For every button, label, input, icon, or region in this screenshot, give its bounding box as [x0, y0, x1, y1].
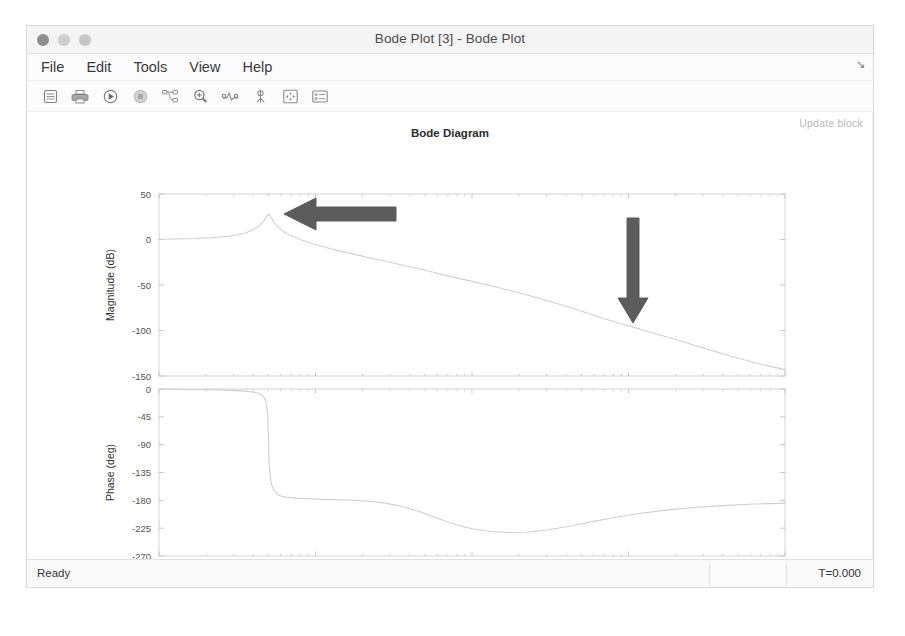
status-bar: Ready T=0.000: [27, 559, 873, 587]
status-pane: [709, 562, 787, 586]
magnitude-axes-box: [159, 194, 785, 376]
save-icon: [42, 88, 59, 105]
phase-axes-box: [159, 389, 785, 556]
screenshot-root: Bode Plot [3] - Bode Plot File Edit Tool…: [0, 0, 905, 636]
menu-bar: File Edit Tools View Help ↘: [27, 54, 873, 81]
stop-button[interactable]: [127, 84, 153, 108]
menu-view[interactable]: View: [189, 54, 220, 80]
menu-overflow-icon[interactable]: ↘: [856, 58, 865, 71]
menu-tools[interactable]: Tools: [133, 54, 167, 80]
fit-to-view-button[interactable]: [277, 84, 303, 108]
plot-canvas[interactable]: Update block Bode Diagram 500-50-100-150…: [27, 112, 873, 588]
run-button[interactable]: [97, 84, 123, 108]
phase-axis-label: Phase (deg): [104, 444, 116, 501]
status-message: Ready: [37, 567, 70, 579]
menu-file[interactable]: File: [41, 54, 64, 80]
data-cursor-button[interactable]: [247, 84, 273, 108]
properties-button[interactable]: [307, 84, 333, 108]
menu-edit[interactable]: Edit: [86, 54, 111, 80]
title-bar: Bode Plot [3] - Bode Plot: [27, 26, 873, 54]
magnitude-ytick-label: -150: [132, 371, 151, 382]
magnitude-ytick-label: 0: [146, 234, 151, 245]
fit-to-view-icon: [282, 88, 299, 105]
zoom-in-icon: [192, 88, 209, 105]
magnitude-ytick-label: -50: [137, 280, 151, 291]
peak-response-icon: [221, 88, 240, 105]
toolbar: [27, 81, 873, 112]
print-icon: [71, 88, 89, 105]
magnitude-ytick-label: -100: [132, 325, 151, 336]
phase-curve: [159, 389, 785, 532]
save-button[interactable]: [37, 84, 63, 108]
menu-help[interactable]: Help: [242, 54, 272, 80]
phase-ytick-label: -45: [137, 411, 151, 422]
window-title: Bode Plot [3] - Bode Plot: [27, 31, 873, 46]
phase-ytick-label: 0: [146, 384, 151, 395]
linearization-icon: [161, 88, 180, 105]
print-button[interactable]: [67, 84, 93, 108]
linearization-button[interactable]: [157, 84, 183, 108]
magnitude-curve: [159, 214, 785, 369]
phase-ytick-label: -180: [132, 495, 151, 506]
stop-icon: [132, 88, 149, 105]
zoom-in-button[interactable]: [187, 84, 213, 108]
bode-plot-window: Bode Plot [3] - Bode Plot File Edit Tool…: [26, 25, 874, 588]
phase-ytick-label: -225: [132, 523, 151, 534]
down-arrow-annotation: [618, 218, 648, 323]
phase-ytick-label: -135: [132, 467, 151, 478]
play-icon: [102, 88, 119, 105]
left-arrow-annotation: [284, 198, 396, 230]
simulation-time: T=0.000: [818, 567, 861, 579]
phase-ytick-label: -90: [137, 439, 151, 450]
magnitude-ytick-label: 50: [140, 189, 151, 200]
data-cursor-icon: [252, 88, 269, 105]
bode-diagram: 500-50-100-150Magnitude (dB)0-45-90-135-…: [27, 112, 874, 588]
peak-response-button[interactable]: [217, 84, 243, 108]
properties-icon: [311, 88, 329, 105]
magnitude-axis-label: Magnitude (dB): [104, 249, 116, 321]
